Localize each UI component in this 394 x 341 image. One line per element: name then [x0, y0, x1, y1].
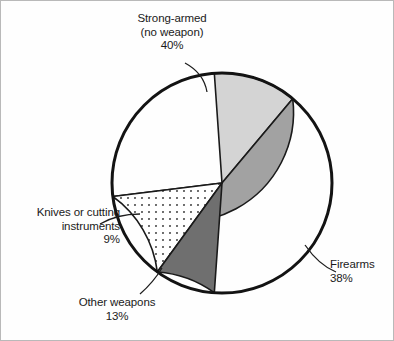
- slice-label-firearms: Firearms 38%: [330, 258, 390, 285]
- slice-label-other-weapons: Other weapons 13%: [62, 296, 172, 323]
- slice-label-knives-line1: Knives or cutting: [4, 206, 120, 220]
- slice-percent-knives: 9%: [4, 233, 120, 247]
- slice-label-strong-armed: Strong-armed (no weapon) 40%: [104, 12, 240, 53]
- slice-percent-strong-armed: 40%: [104, 39, 240, 53]
- pie-chart-figure: Strong-armed (no weapon) 40% Firearms 38…: [0, 0, 394, 341]
- slice-label-strong-armed-line2: (no weapon): [104, 26, 240, 40]
- slice-label-other-weapons-line1: Other weapons: [62, 296, 172, 310]
- slice-percent-firearms: 38%: [330, 272, 390, 286]
- slice-label-knives: Knives or cutting instruments 9%: [4, 206, 120, 247]
- slice-percent-other-weapons: 13%: [62, 310, 172, 324]
- slice-label-firearms-line1: Firearms: [330, 258, 390, 272]
- slice-label-knives-line2: instruments: [4, 220, 120, 234]
- slice-label-strong-armed-line1: Strong-armed: [104, 12, 240, 26]
